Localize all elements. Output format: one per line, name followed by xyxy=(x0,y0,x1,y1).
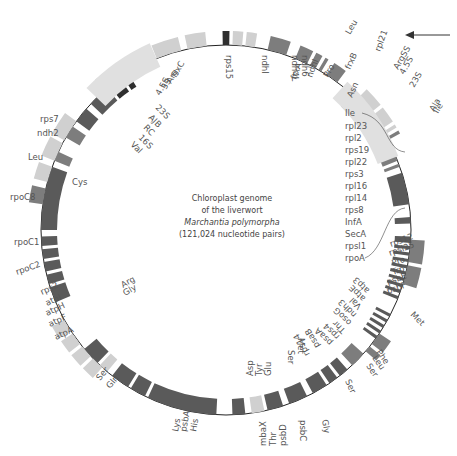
svg-text:rps19: rps19 xyxy=(345,145,369,155)
svg-text:rpl2: rpl2 xyxy=(345,133,362,143)
gene-block xyxy=(41,236,58,246)
svg-text:Leu: Leu xyxy=(343,18,359,36)
title-line-3: Marchantia polymorpha xyxy=(184,218,279,227)
svg-text:23S: 23S xyxy=(407,70,424,89)
svg-text:Ser: Ser xyxy=(343,378,358,395)
svg-text:rps7: rps7 xyxy=(40,114,59,124)
svg-text:ndh2: ndh2 xyxy=(37,128,59,138)
svg-text:Gly: Gly xyxy=(320,419,332,435)
svg-text:rpl14: rpl14 xyxy=(345,193,367,203)
svg-text:Glu: Glu xyxy=(263,362,273,376)
svg-text:rpoA: rpoA xyxy=(345,253,365,263)
svg-text:rps3: rps3 xyxy=(345,169,364,179)
svg-text:rps15: rps15 xyxy=(224,55,234,79)
svg-text:Leu: Leu xyxy=(28,152,43,162)
svg-text:InfA: InfA xyxy=(345,217,362,227)
svg-text:ndhI: ndhI xyxy=(260,55,270,74)
gene-block xyxy=(223,31,230,45)
svg-text:mbaX: mbaX xyxy=(258,421,268,446)
gene-block xyxy=(387,173,409,207)
counterclockwise-arrow xyxy=(405,31,450,39)
svg-text:psbD: psbD xyxy=(278,424,288,446)
svg-text:Met: Met xyxy=(409,309,428,328)
gene-block xyxy=(245,32,257,47)
svg-text:rpl23: rpl23 xyxy=(345,121,367,131)
gene-block xyxy=(232,398,245,415)
gene-block xyxy=(250,395,265,413)
title-line-1: Chloroplast genome xyxy=(192,194,273,203)
gene-block xyxy=(131,375,152,396)
svg-text:frxB: frxB xyxy=(343,51,359,71)
gene-block xyxy=(268,36,291,55)
gene-block xyxy=(395,217,411,224)
svg-text:rps8: rps8 xyxy=(345,205,364,215)
svg-text:Cys: Cys xyxy=(72,177,88,187)
gene-block xyxy=(84,339,108,363)
gene-block xyxy=(305,372,326,394)
title-line-4: (121,024 nucleotide pairs) xyxy=(179,230,285,239)
svg-text:rpoC2: rpoC2 xyxy=(14,259,41,277)
svg-text:rpoC8: rpoC8 xyxy=(10,192,35,202)
svg-text:SecA: SecA xyxy=(345,229,366,239)
gene-block xyxy=(232,31,243,46)
svg-text:rpsl1: rpsl1 xyxy=(345,241,366,251)
svg-text:Ser: Ser xyxy=(286,350,296,365)
gene-block xyxy=(44,259,62,271)
svg-text:rpl21: rpl21 xyxy=(372,29,389,53)
genome-map-svg: Chloroplast genome of the liverwort Marc… xyxy=(0,0,457,456)
svg-text:Met: Met xyxy=(296,338,306,355)
title-line-2: of the liverwort xyxy=(201,206,262,215)
svg-text:rpoC1: rpoC1 xyxy=(14,237,39,247)
svg-text:Ile: Ile xyxy=(345,108,355,118)
gene-block xyxy=(341,343,363,365)
svg-text:His: His xyxy=(188,417,200,432)
svg-text:Thr: Thr xyxy=(268,431,278,447)
gene-block xyxy=(76,109,98,131)
svg-text:frxC: frxC xyxy=(169,59,186,79)
gene-block xyxy=(42,248,59,259)
svg-text:psbC: psbC xyxy=(298,420,308,441)
genome-diagram: Chloroplast genome of the liverwort Marc… xyxy=(0,0,457,456)
gene-block xyxy=(284,382,307,404)
svg-text:rpl22: rpl22 xyxy=(345,157,367,167)
svg-text:rpl16: rpl16 xyxy=(345,181,367,191)
